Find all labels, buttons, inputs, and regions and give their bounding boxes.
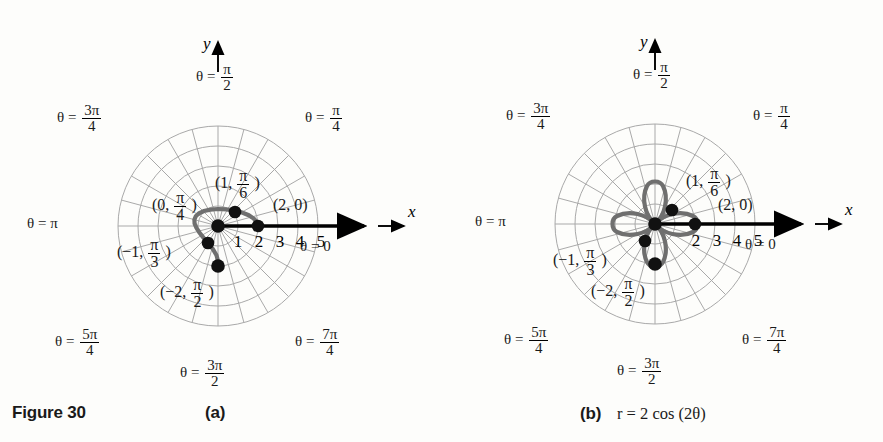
plabel-den-2-a4: 2	[191, 294, 203, 310]
theta-eq-b2: θ =	[506, 107, 525, 123]
frac-num-pi-a6: π	[215, 357, 223, 373]
point-label-2-0-a: (2, 0)	[273, 196, 308, 214]
plabel-den-6-a1: 6	[237, 185, 249, 201]
theta-eq-a2: θ =	[57, 109, 76, 125]
point-0-pi4-b	[648, 217, 662, 231]
tick-label-4-b: 4	[733, 231, 742, 250]
frac-den-4-b2: 4	[531, 117, 550, 132]
frac-num-pi-b5: π	[777, 324, 785, 340]
angle-label-3pi-over-4-b: θ = 3π 4	[506, 101, 550, 132]
plabel-open-a1: (1,	[215, 174, 232, 191]
frac-num-pi-a2: π	[92, 102, 100, 118]
angle-label-3pi-over-4-a: θ = 3π 4	[57, 103, 101, 134]
frac-den-4-b4: 4	[529, 341, 548, 356]
plabel-close-b3: )	[601, 251, 606, 268]
theta-eq-a6: θ =	[180, 364, 199, 380]
point-label-0-pi4-a: (0, π 4 )	[152, 190, 197, 223]
point-label-m1-pi3-a: (−1, π 3 )	[117, 237, 171, 270]
tick-label-2: 2	[255, 232, 264, 251]
point-label-2-0-b: (2, 0)	[718, 196, 753, 214]
plabel-open-a4: (−2,	[160, 283, 186, 300]
point-0-pi4	[211, 219, 225, 233]
frac-den-4-b3: 4	[778, 117, 790, 132]
point-1-pi6-b	[666, 204, 679, 217]
panel-a-caption: (a)	[205, 403, 225, 423]
plabel-num-pi-b1: π	[708, 166, 720, 183]
frac-num-5-b4: 5	[531, 324, 539, 340]
angle-label-pi-over-4-b: θ = π 4	[753, 101, 790, 132]
theta-eq-b3: θ =	[753, 107, 772, 123]
plabel-num-pi-b3: π	[584, 245, 596, 262]
theta-eq-b6: θ =	[617, 362, 636, 378]
plabel-open-b3: (−1,	[553, 251, 579, 268]
plabel-num-pi-a4: π	[191, 277, 203, 294]
point-label-1-pi6-a: (1, π 6 )	[215, 168, 260, 201]
angle-label-pi-a: θ = π	[27, 215, 58, 232]
frac-num-pi-b4: π	[539, 324, 547, 340]
tick-label-3-b: 3	[713, 231, 722, 250]
theta-eq-a1: θ =	[196, 68, 215, 84]
angle-label-zero-b: θ = 0	[745, 236, 776, 253]
frac-num-pi-a5: π	[330, 326, 338, 342]
frac-num-pi-a3: π	[330, 103, 342, 119]
plabel-close-b1: )	[725, 172, 730, 189]
angle-label-5pi-over-4-a: θ = 5π 4	[55, 327, 99, 358]
frac-num-pi-b3: π	[778, 101, 790, 117]
plabel-open-b4: (−2,	[591, 282, 617, 299]
point-m1-pi3-b	[639, 235, 652, 248]
plabel-open-b1: (1,	[686, 172, 703, 189]
y-axis-label-b: y	[638, 32, 648, 51]
frac-num-pi-a1: π	[221, 62, 233, 78]
plabel-num-pi-a3: π	[148, 237, 160, 254]
angle-label-3pi-over-2-b: θ = 3π 2	[617, 356, 661, 387]
point-label-m2-pi2-a: (−2, π 2 )	[160, 277, 214, 310]
point-label-m2-pi2-b: (−2, π 2 )	[591, 276, 645, 309]
plabel-open-a3: (−1,	[117, 243, 143, 260]
tick-label-1: 1	[234, 232, 243, 251]
plabel-num-pi-a2: π	[174, 190, 186, 207]
x-axis-label-b: x	[844, 200, 853, 219]
plabel-open-a2: (0,	[152, 196, 169, 213]
frac-num-3-a2: 3	[84, 102, 92, 118]
plabel-den-3-a3: 3	[148, 254, 160, 270]
point-m2-pi2-b	[648, 257, 662, 271]
frac-den-4-a2: 4	[82, 119, 101, 134]
y-axis-label-a: y	[201, 34, 211, 53]
frac-den-4-a5: 4	[320, 343, 339, 358]
figure-caption-label: Figure 30	[12, 403, 86, 423]
plabel-close-a4: )	[208, 283, 213, 300]
angle-label-zero-a: θ = 0	[300, 238, 331, 255]
angle-label-5pi-over-4-b: θ = 5π 4	[504, 325, 548, 356]
theta-eq-b1: θ =	[633, 66, 652, 82]
theta-eq-b5: θ =	[742, 331, 761, 347]
frac-num-pi-b2: π	[541, 100, 549, 116]
theta-eq-a3: θ =	[305, 109, 324, 125]
angle-label-7pi-over-4-b: θ = 7π 4	[742, 325, 786, 356]
frac-den-2-b6: 2	[642, 372, 661, 387]
plabel-close-b4: )	[639, 282, 644, 299]
theta-eq-a4: θ =	[55, 333, 74, 349]
frac-num-pi-b1: π	[658, 60, 670, 76]
frac-num-7-b5: 7	[769, 324, 777, 340]
point-1-pi6	[229, 206, 242, 219]
angle-label-pi-over-4-a: θ = π 4	[305, 103, 342, 134]
point-label-m1-pi3-b: (−1, π 3 )	[553, 245, 607, 278]
plabel-den-4-a2: 4	[174, 207, 186, 223]
plabel-num-pi-b4: π	[622, 276, 634, 293]
point-label-1-pi6-b: (1, π 6 )	[686, 166, 731, 199]
angle-label-pi-over-2-b: θ = π 2	[633, 60, 670, 91]
panel-b-caption: (b)	[580, 404, 601, 424]
angle-label-3pi-over-2-a: θ = 3π 2	[180, 358, 224, 389]
plabel-close-a1: )	[254, 174, 259, 191]
frac-den-4-a4: 4	[80, 343, 99, 358]
frac-num-3-b6: 3	[644, 355, 652, 371]
frac-den-4-b5: 4	[767, 341, 786, 356]
point-2-0	[252, 220, 265, 233]
frac-den-2-b1: 2	[658, 76, 670, 91]
angle-label-pi-b: θ = π	[475, 213, 506, 230]
frac-num-7-a5: 7	[322, 326, 330, 342]
plabel-close-a3: )	[165, 243, 170, 260]
frac-num-3-b2: 3	[533, 100, 541, 116]
frac-num-3-a6: 3	[207, 357, 215, 373]
theta-eq-b4: θ =	[504, 331, 523, 347]
